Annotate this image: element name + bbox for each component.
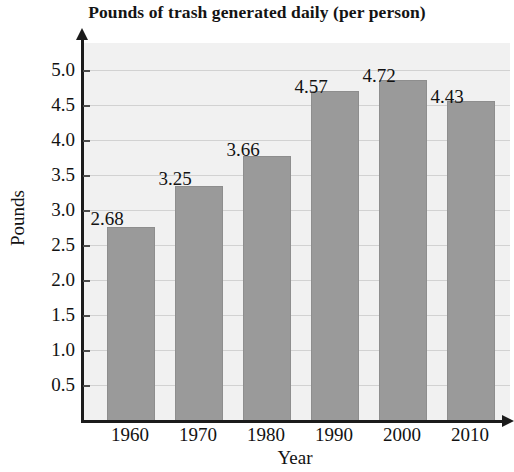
y-tick-mark [83,70,90,72]
y-tick-label-0-5: 0.5 [29,374,75,396]
x-tick-label-2010: 2010 [430,424,510,446]
bar-1960[interactable] [107,227,155,420]
y-tick-label-3-0: 3.0 [29,199,75,221]
y-tick-mark [83,245,90,247]
y-axis-line [81,38,84,422]
bar-chart-figure: Pounds of trash generated daily (per per… [0,0,514,472]
bar-2010[interactable] [447,101,495,420]
chart-title: Pounds of trash generated daily (per per… [0,2,514,23]
y-tick-label-2-0: 2.0 [29,269,75,291]
bar-value-label-1990: 4.57 [276,76,346,98]
x-axis-title: Year [255,447,335,469]
y-tick-mark [83,210,90,212]
bar-value-label-2000: 4.72 [344,65,414,87]
y-tick-label-4-5: 4.5 [29,94,75,116]
bar-value-label-1970: 3.25 [140,168,210,190]
bar-1970[interactable] [175,186,223,420]
y-tick-label-5-0: 5.0 [29,59,75,81]
y-tick-mark [83,140,90,142]
y-tick-label-1-0: 1.0 [29,339,75,361]
y-tick-mark [83,105,90,107]
y-tick-mark [83,175,90,177]
bar-value-label-1980: 3.66 [208,139,278,161]
y-tick-mark [83,385,90,387]
y-tick-label-1-5: 1.5 [29,304,75,326]
bar-value-label-2010: 4.43 [412,86,482,108]
y-axis-arrow-icon [76,28,88,40]
bar-2000[interactable] [379,80,427,420]
y-tick-label-4-0: 4.0 [29,129,75,151]
y-tick-label-3-5: 3.5 [29,164,75,186]
y-tick-mark [83,315,90,317]
y-tick-mark [83,280,90,282]
bar-1980[interactable] [243,156,291,420]
y-tick-mark [83,350,90,352]
y-axis-tick-labels: 5.0 4.5 4.0 3.5 3.0 2.5 2.0 1.5 1.0 0.5 [29,0,75,472]
y-tick-label-2-5: 2.5 [29,234,75,256]
bar-1990[interactable] [311,91,359,420]
x-axis-line [81,420,504,423]
y-axis-title: Pounds [7,172,29,264]
